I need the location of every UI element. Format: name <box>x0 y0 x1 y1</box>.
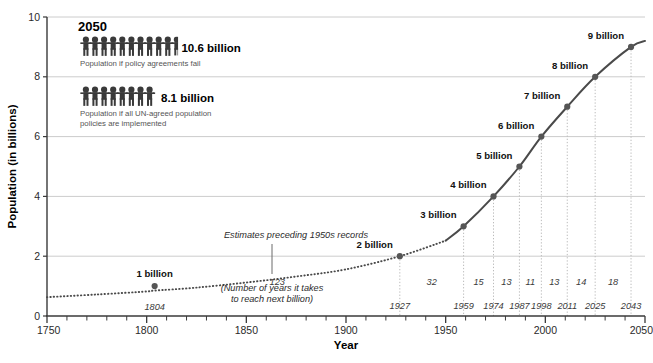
milestone-year-2025: 2025 <box>584 301 606 311</box>
milestone-marker-1959 <box>461 223 467 229</box>
pictogram-person-r1-9-head <box>156 37 162 43</box>
pictogram-person-r2-4-leg-left <box>111 98 113 106</box>
pictogram-person-r1-2-head <box>92 37 98 43</box>
pictogram-person-r1-2 <box>89 37 100 56</box>
pictogram-person-r1-8-arm-left <box>144 42 148 44</box>
pictogram-person-r2-4 <box>108 87 119 106</box>
pictogram-person-r1-8-leg-right <box>150 48 152 56</box>
pictogram-person-r1-9-body <box>153 37 164 56</box>
pictogram-person-r2-4-leg-right <box>114 98 116 106</box>
pictogram-person-r1-10-leg-left <box>165 48 167 56</box>
pictogram-person-r1-10-leg-right <box>168 48 170 56</box>
pictogram-person-r1-1-leg-right <box>86 48 88 56</box>
pictogram-person-r2-5-leg-right <box>123 98 125 106</box>
y-tick-label-10: 10 <box>28 11 40 23</box>
annotation-gap-note-line2: to reach next billion) <box>231 294 313 304</box>
pictogram-person-r1-1-body <box>80 37 91 56</box>
legend-caption-1: Population if policy agreements fail <box>80 59 201 68</box>
milestone-label-2043: 9 billion <box>588 30 624 41</box>
pictogram-person-r2-5-leg-left <box>120 98 122 106</box>
pictogram-person-r2-7 <box>135 87 146 106</box>
pictogram-person-r1-7-leg-right <box>141 48 143 56</box>
pictogram-person-r1-1-leg-left <box>83 48 85 56</box>
milestone-marker-1998 <box>538 134 544 140</box>
x-tick-label-2000: 2000 <box>534 324 558 336</box>
milestone-label-1987: 5 billion <box>476 150 512 161</box>
pictogram-person-r1-10-arm-left <box>162 42 166 44</box>
pictogram-person-r1-1-arm-left <box>80 42 84 44</box>
pictogram-person-r1-5-leg-right <box>123 48 125 56</box>
pictogram-person-r1-5-arm-left <box>117 42 121 44</box>
pictogram-person-r2-3-leg-left <box>101 98 103 106</box>
milestone-marker-1974 <box>490 193 496 199</box>
pictogram-person-r1-8-body <box>144 37 155 56</box>
scenario-legend-box: 205010.6 billionPopulation if policy agr… <box>78 19 241 128</box>
gap-label-1959-1974: 15 <box>473 277 484 287</box>
milestone-year-1998: 1998 <box>531 301 552 311</box>
pictogram-person-r2-6-leg-right <box>132 98 134 106</box>
pictogram-person-r2-8-leg-left <box>147 98 149 106</box>
pictogram-person-r2-5-body <box>117 87 128 106</box>
pictogram-person-r1-3 <box>99 37 110 56</box>
pictogram-person-r2-4-body <box>108 87 119 106</box>
pictogram-person-r1-9-leg-left <box>156 48 158 56</box>
x-axis-title: Year <box>334 339 359 351</box>
legend-caption-2-line2: policies are implemented <box>80 119 166 128</box>
x-tick-label-1750: 1750 <box>37 324 61 336</box>
axis-titles-group: Population (in billions)Year <box>6 104 359 351</box>
pictogram-person-r1-10-body <box>162 37 173 56</box>
legend-row-1: 10.6 billionPopulation if policy agreeme… <box>80 37 241 68</box>
pictogram-person-r1-9-leg-right <box>159 48 161 56</box>
y-tick-label-8: 8 <box>34 70 40 82</box>
pictogram-person-r1-5-body <box>117 37 128 56</box>
x-tick-label-2050: 2050 <box>630 324 653 336</box>
x-tick-label-1950: 1950 <box>434 324 458 336</box>
pictogram-person-r1-1-head <box>83 37 89 43</box>
pictogram-person-r2-3-body <box>99 87 110 106</box>
milestone-year-1804: 1804 <box>144 302 164 312</box>
gap-label-2025-2043: 18 <box>608 277 619 287</box>
pictogram-person-r1-7-arm-left <box>135 42 139 44</box>
pictogram-person-r2-1-body <box>80 87 91 106</box>
gap-label-2011-2025: 14 <box>576 277 586 287</box>
pictogram-person-r2-5 <box>117 87 128 106</box>
pictogram-person-r1-7 <box>135 37 146 56</box>
pictogram-person-r1-2-leg-right <box>96 48 98 56</box>
pictogram-person-r2-2-leg-left <box>92 98 94 106</box>
pictogram-person-r1-8-head <box>146 37 152 43</box>
pictogram-person-r1-9 <box>153 37 164 56</box>
pictogram-person-r2-4-arm-left <box>108 92 112 94</box>
milestone-year-2043: 2043 <box>620 301 642 311</box>
pictogram-person-r1-10 <box>162 37 173 56</box>
milestone-label-1998: 6 billion <box>498 120 534 131</box>
pictogram-person-r2-3-head <box>101 87 107 93</box>
milestone-year-1927: 1927 <box>390 301 411 311</box>
gridlines-group <box>47 17 645 256</box>
pictogram-person-r2-2-body <box>89 87 100 106</box>
pictogram-person-r1-2-body <box>89 37 100 56</box>
pictogram-person-r2-3 <box>99 87 110 106</box>
pictogram-person-r1-4 <box>108 37 119 56</box>
legend-value-2: 8.1 billion <box>161 92 214 104</box>
pictogram-person-r2-2-leg-right <box>96 98 98 106</box>
milestone-markers-group <box>152 44 635 289</box>
gap-label-1998-2011: 13 <box>549 277 560 287</box>
pictogram-person-r2-3-leg-right <box>105 98 107 106</box>
pictogram-person-r1-4-body <box>108 37 119 56</box>
legend-year-label: 2050 <box>78 19 107 34</box>
pictogram-person-r1-partial-head <box>174 37 180 43</box>
pictogram-person-r1-2-arm-left <box>89 42 93 44</box>
milestone-label-1959: 3 billion <box>420 209 456 220</box>
milestone-label-1974: 4 billion <box>450 179 486 190</box>
pictogram-person-r1-5 <box>117 37 128 56</box>
pictogram-person-r1-8-leg-left <box>147 48 149 56</box>
pictogram-person-r1-7-leg-left <box>138 48 140 56</box>
pictogram-person-r2-2-arm-left <box>89 92 93 94</box>
pictogram-person-r2-7-head <box>137 87 143 93</box>
pictogram-person-r1-4-arm-left <box>108 42 112 44</box>
gap-label-1927-1959: 32 <box>427 277 437 287</box>
milestone-marker-1804 <box>152 283 158 289</box>
pictogram-person-r2-8 <box>144 87 155 106</box>
pictogram-person-r2-1-head <box>83 87 89 93</box>
milestone-marker-1987 <box>516 163 522 169</box>
